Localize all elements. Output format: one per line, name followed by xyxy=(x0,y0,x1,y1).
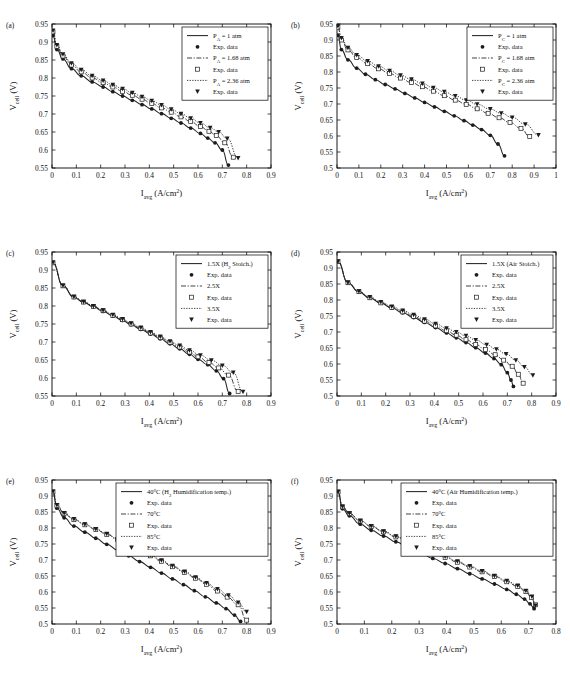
data-marker-filled-circle xyxy=(222,377,226,381)
panel-letter: (a) xyxy=(6,21,15,30)
data-marker-open-square xyxy=(475,295,479,299)
data-marker-filled-circle xyxy=(456,567,460,571)
data-marker-filled-triangle xyxy=(531,373,536,378)
data-marker-filled-circle xyxy=(442,109,446,113)
x-axis-label: Iavg (A/cm2) xyxy=(426,644,467,656)
data-marker-filled-circle xyxy=(503,154,507,158)
legend-entry-label: Exp. data xyxy=(432,499,457,506)
data-marker-filled-circle xyxy=(505,588,509,592)
y-tick-label: 0.55 xyxy=(320,148,333,157)
data-marker-filled-circle xyxy=(443,562,447,566)
x-tick-label: 0.6 xyxy=(193,627,203,636)
x-tick-label: 0.3 xyxy=(120,399,130,408)
x-tick-label: 0.2 xyxy=(96,171,106,180)
y-tick-label: 0.6 xyxy=(324,360,334,369)
plot-e: (e)00.10.20.30.40.50.60.70.80.90.50.550.… xyxy=(0,456,285,685)
y-tick-label: 0.95 xyxy=(35,476,48,485)
y-tick-label: 0.7 xyxy=(324,556,334,565)
data-marker-open-square xyxy=(231,155,235,159)
y-tick-label: 0.65 xyxy=(35,128,48,137)
data-marker-filled-circle xyxy=(433,105,437,109)
data-marker-filled-circle xyxy=(488,133,492,137)
x-tick-label: 0.7 xyxy=(486,171,496,180)
x-tick-label: 0.2 xyxy=(381,399,391,408)
y-tick-label: 0.85 xyxy=(320,280,333,289)
y-tick-label: 0.5 xyxy=(324,392,334,401)
data-marker-filled-circle xyxy=(220,148,224,152)
data-marker-filled-circle xyxy=(403,92,407,96)
y-tick-label: 0.55 xyxy=(35,392,48,401)
y-tick-label: 0.85 xyxy=(35,284,48,293)
x-axis-label: Iavg (A/cm2) xyxy=(426,416,467,428)
x-tick-label: 0.8 xyxy=(527,399,537,408)
y-tick-label: 0.6 xyxy=(324,588,334,597)
data-marker-filled-circle xyxy=(199,132,203,136)
x-tick-label: 0 xyxy=(335,627,339,636)
data-marker-filled-circle xyxy=(160,112,164,116)
y-tick-label: 0.75 xyxy=(320,312,333,321)
data-marker-filled-circle xyxy=(190,273,194,277)
y-axis-label: Vcell (V) xyxy=(8,81,20,110)
y-tick-label: 0.65 xyxy=(320,344,333,353)
x-tick-label: 0.2 xyxy=(376,171,386,180)
legend-entry-label: 70°C xyxy=(432,510,445,517)
x-tick-label: 0.5 xyxy=(454,399,464,408)
x-tick-label: 0.4 xyxy=(420,171,430,180)
x-tick-label: 0.5 xyxy=(169,627,179,636)
y-tick-label: 0.65 xyxy=(320,116,333,125)
y-tick-label: 0.55 xyxy=(35,164,48,173)
data-marker-filled-circle xyxy=(169,116,173,120)
data-marker-filled-circle xyxy=(514,592,518,596)
data-marker-filled-circle xyxy=(160,571,164,575)
legend-entry-label: Exp. data xyxy=(498,43,523,50)
data-marker-filled-circle xyxy=(496,142,500,146)
x-tick-label: 0.3 xyxy=(120,171,130,180)
y-tick-label: 0.5 xyxy=(39,620,49,629)
x-tick-label: 0.4 xyxy=(145,171,155,180)
plot-c: (c)00.10.20.30.40.50.60.70.80.90.550.60.… xyxy=(0,228,285,457)
data-marker-filled-triangle xyxy=(536,133,541,138)
data-marker-filled-circle xyxy=(509,378,513,382)
y-tick-label: 0.95 xyxy=(35,248,48,257)
plot-f: (f)00.10.20.30.40.50.60.70.80.50.550.60.… xyxy=(285,456,570,685)
panel-c: (c)00.10.20.30.40.50.60.70.80.90.550.60.… xyxy=(0,228,285,457)
data-marker-filled-circle xyxy=(523,597,527,601)
legend-entry-label: 3.5X xyxy=(207,305,220,312)
y-tick-label: 0.6 xyxy=(39,588,49,597)
y-tick-label: 0.9 xyxy=(39,266,49,275)
x-tick-label: 0.7 xyxy=(218,171,228,180)
x-tick-label: 0.1 xyxy=(72,171,82,180)
legend-entry-label: Exp. data xyxy=(147,499,172,506)
data-marker-filled-circle xyxy=(214,601,218,605)
y-tick-label: 0.9 xyxy=(324,264,334,273)
y-tick-label: 0.7 xyxy=(39,556,49,565)
y-tick-label: 0.7 xyxy=(39,110,49,119)
y-tick-label: 0.85 xyxy=(320,508,333,517)
x-tick-label: 0.8 xyxy=(242,171,252,180)
legend-entry-label: Exp. data xyxy=(498,66,523,73)
data-marker-filled-circle xyxy=(431,557,435,561)
y-axis-label: Vcell (V) xyxy=(8,309,20,338)
x-tick-label: 0.8 xyxy=(551,627,561,636)
data-marker-filled-circle xyxy=(196,45,200,49)
x-tick-label: 0.4 xyxy=(442,627,452,636)
data-marker-open-square xyxy=(196,67,200,71)
x-tick-label: 0.9 xyxy=(551,399,561,408)
legend-entry-label: Exp. data xyxy=(207,271,232,278)
y-tick-label: 0.7 xyxy=(39,338,49,347)
data-marker-filled-triangle xyxy=(244,610,249,615)
data-marker-open-square xyxy=(217,366,221,370)
x-tick-label: 0.4 xyxy=(145,399,155,408)
y-tick-label: 0.9 xyxy=(324,36,334,45)
data-marker-open-square xyxy=(497,116,501,120)
y-tick-label: 0.85 xyxy=(320,52,333,61)
x-tick-label: 0 xyxy=(335,399,339,408)
data-marker-filled-circle xyxy=(505,371,509,375)
data-marker-filled-circle xyxy=(481,45,485,49)
y-tick-label: 0.75 xyxy=(320,540,333,549)
x-tick-label: 0.8 xyxy=(242,627,252,636)
y-axis-label: Vcell (V) xyxy=(293,537,305,566)
data-marker-filled-circle xyxy=(336,33,340,37)
y-tick-label: 0.8 xyxy=(324,68,334,77)
data-marker-open-square xyxy=(502,358,506,362)
